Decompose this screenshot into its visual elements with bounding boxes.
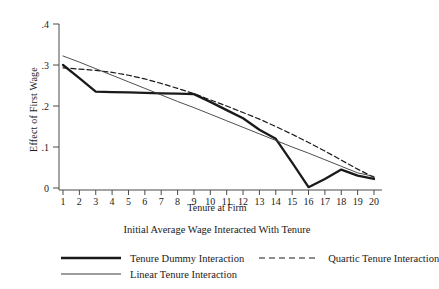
legend-entry-quartic-tenure: Quartic Tenure Interaction xyxy=(258,253,439,264)
legend-swatch-solid-thin-icon xyxy=(60,269,122,279)
x-axis-title: Tenure at Firm xyxy=(0,202,434,213)
legend-label-linear-tenure: Linear Tenure Interaction xyxy=(130,269,237,280)
legend: Tenure Dummy Interaction Quartic Tenure … xyxy=(60,250,434,282)
legend-title: Initial Average Wage Interacted With Ten… xyxy=(0,224,434,235)
y-tick-group: 0.1.2.3.4 xyxy=(42,19,60,194)
y-tick-label: 0 xyxy=(44,183,49,194)
legend-entry-linear-tenure: Linear Tenure Interaction xyxy=(60,269,237,280)
y-axis-title: Effect of First Wage xyxy=(28,25,39,195)
series-line xyxy=(63,65,374,187)
legend-row-1: Tenure Dummy Interaction Quartic Tenure … xyxy=(60,250,434,266)
legend-swatch-solid-thick-icon xyxy=(60,253,122,263)
legend-label-tenure-dummy: Tenure Dummy Interaction xyxy=(130,253,244,264)
y-tick-label: .3 xyxy=(42,60,50,71)
y-tick-label: .1 xyxy=(42,142,50,153)
y-tick-label: .2 xyxy=(42,101,50,112)
data-series-group xyxy=(63,56,374,187)
legend-entry-tenure-dummy: Tenure Dummy Interaction xyxy=(60,253,244,264)
y-tick-label: .4 xyxy=(42,19,50,30)
series-line xyxy=(63,56,374,177)
legend-swatch-dashed-icon xyxy=(258,253,320,263)
legend-label-quartic-tenure: Quartic Tenure Interaction xyxy=(328,253,439,264)
legend-row-2: Linear Tenure Interaction xyxy=(60,266,434,282)
